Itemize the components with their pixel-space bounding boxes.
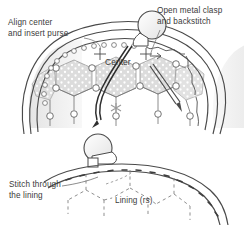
diagram-canvas: Align center and insert purse Open metal… xyxy=(0,0,244,225)
stitch-through-pointer xyxy=(62,177,98,186)
label-stitch-through-lining: Stitch through the lining xyxy=(9,180,61,201)
label-align-center: Align center and insert purse xyxy=(8,18,68,39)
label-center: Center xyxy=(105,57,131,68)
label-open-metal-clasp: Open metal clasp and backstitch xyxy=(157,6,222,27)
lower-lining-figure xyxy=(44,134,228,225)
leader-line-stitch xyxy=(106,172,132,184)
label-lining-rs: Lining (rs) xyxy=(115,196,153,207)
lining-mesh-dashed xyxy=(68,170,190,220)
lining-backstitch-dashes xyxy=(66,170,218,216)
lining-knob-ball xyxy=(84,134,117,167)
mesh-star-motif xyxy=(111,103,121,113)
